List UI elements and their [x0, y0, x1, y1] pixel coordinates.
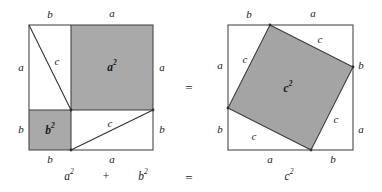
left-label-top-a: a: [109, 7, 115, 19]
equation-term-c-squared: c2: [285, 167, 294, 181]
right-label-hyp-right-c: c: [334, 113, 339, 125]
left-label-bottom-a: a: [109, 153, 115, 165]
proof-diagram-svg: b a a b a b b a c c a2 b2 =: [0, 0, 382, 192]
left-label-left-a: a: [18, 61, 24, 73]
right-vertex-dot-bottom: [310, 149, 313, 152]
right-label-left-a: a: [217, 59, 223, 71]
equation-term-a-squared: a2: [64, 167, 74, 181]
left-label-right-a: a: [159, 61, 165, 73]
equation-a-exponent: 2: [70, 167, 74, 176]
equation-plus-sign: +: [103, 170, 110, 182]
left-junction-dot-bottom: [70, 149, 73, 152]
equation-equals-sign: =: [185, 170, 192, 185]
bottom-equation-row: a2 + b2 = c2: [64, 167, 293, 185]
b-squared-exponent: 2: [50, 121, 55, 130]
right-label-hyp-left-c: c: [243, 53, 248, 65]
equation-term-b-squared: b2: [138, 167, 148, 181]
equation-c-exponent: 2: [290, 167, 294, 176]
left-junction-dot-center: [70, 109, 73, 112]
left-square-group: b a a b a b b a c c a2 b2: [18, 7, 165, 165]
left-label-left-b: b: [18, 123, 24, 135]
left-label-right-b: b: [159, 123, 165, 135]
right-label-hyp-top-c: c: [318, 33, 323, 45]
right-label-right-b: b: [358, 59, 364, 71]
right-label-top-a: a: [310, 7, 316, 19]
middle-equals-sign: =: [185, 80, 192, 95]
right-label-bottom-a: a: [267, 153, 273, 165]
a-squared-exponent: 2: [112, 58, 117, 67]
right-vertex-dot-right: [352, 66, 355, 69]
left-junction-dot-right: [152, 109, 155, 112]
equation-b-exponent: 2: [144, 167, 148, 176]
c-squared-exponent: 2: [288, 79, 293, 88]
right-label-right-a: a: [358, 123, 364, 135]
right-label-bottom-b: b: [330, 153, 336, 165]
pythagorean-proof-figure: b a a b a b b a c c a2 b2 =: [0, 0, 382, 192]
left-label-hyp-upper-c: c: [55, 55, 60, 67]
right-vertex-dot-top: [269, 24, 272, 27]
right-label-hyp-bottom-c: c: [252, 130, 257, 142]
right-square-group: b a a b b a a b c c c c c2: [217, 7, 364, 165]
left-label-bottom-b: b: [47, 153, 53, 165]
left-label-hyp-lower-c: c: [108, 117, 113, 129]
right-label-top-b: b: [246, 8, 252, 20]
right-label-left-b: b: [217, 123, 223, 135]
left-upper-hypotenuse: [29, 25, 71, 110]
right-vertex-dot-left: [227, 107, 230, 110]
left-label-top-b: b: [47, 8, 53, 20]
